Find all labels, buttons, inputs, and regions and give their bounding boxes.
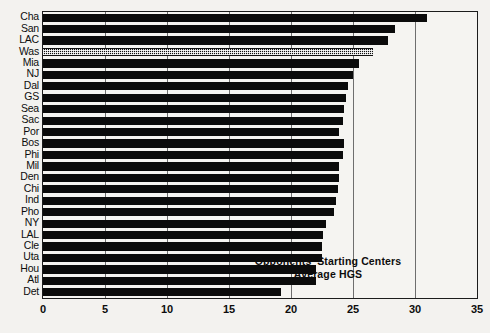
bar-row <box>43 104 477 115</box>
bar-sea <box>43 105 344 113</box>
x-tick-label-35: 35 <box>471 303 483 316</box>
bar-row <box>43 126 477 137</box>
y-tick-label-pho: Pho <box>0 206 39 217</box>
bar-gs <box>43 94 346 102</box>
y-tick-label-sea: Sea <box>0 103 39 114</box>
y-tick-label-chi: Chi <box>0 183 39 194</box>
x-tick-label-30: 30 <box>409 303 421 316</box>
y-tick-label-det: Det <box>0 286 39 297</box>
bar-row <box>43 206 477 217</box>
bar-row <box>43 35 477 46</box>
y-tick-label-lal: LAL <box>0 229 39 240</box>
bar-cha <box>43 14 427 22</box>
annotation-line-1: Opponents' Starting Centers <box>222 255 434 268</box>
bar-row <box>43 69 477 80</box>
bar-row <box>43 218 477 229</box>
y-tick-label-phi: Phi <box>0 149 39 160</box>
bar-lal <box>43 231 323 239</box>
y-tick-label-sac: Sac <box>0 114 39 125</box>
y-tick-label-san: San <box>0 23 39 34</box>
bar-row <box>43 229 477 240</box>
x-tick-label-0: 0 <box>40 303 46 316</box>
chart-container: ChaSanLACWasMiaNJDalGSSeaSacPorBosPhiMil… <box>0 0 490 333</box>
x-tick-label-20: 20 <box>285 303 297 316</box>
bar-san <box>43 25 395 33</box>
chart-annotation: Opponents' Starting Centers Average HGS <box>222 255 434 280</box>
bar-ind <box>43 197 336 205</box>
bar-row <box>43 195 477 206</box>
bar-row <box>43 184 477 195</box>
bar-chi <box>43 185 338 193</box>
bar-row <box>43 138 477 149</box>
bar-sac <box>43 117 343 125</box>
bar-dal <box>43 82 348 90</box>
bar-row <box>43 241 477 252</box>
y-tick-label-por: Por <box>0 126 39 137</box>
y-tick-label-dal: Dal <box>0 80 39 91</box>
bar-det <box>43 288 281 296</box>
y-tick-label-mia: Mia <box>0 57 39 68</box>
y-tick-label-nj: NJ <box>0 68 39 79</box>
bar-phi <box>43 151 343 159</box>
bar-cle <box>43 242 322 250</box>
x-tick-label-15: 15 <box>223 303 235 316</box>
y-tick-label-mil: Mil <box>0 160 39 171</box>
bar-row <box>43 58 477 69</box>
y-axis-tick-labels: ChaSanLACWasMiaNJDalGSSeaSacPorBosPhiMil… <box>0 11 39 299</box>
y-tick-label-gs: GS <box>0 91 39 102</box>
bar-bos <box>43 139 344 147</box>
bar-den <box>43 174 339 182</box>
bar-row <box>43 115 477 126</box>
bar-row <box>43 287 477 298</box>
x-tick-label-25: 25 <box>347 303 359 316</box>
bar-row <box>43 172 477 183</box>
y-tick-label-cha: Cha <box>0 11 39 22</box>
y-tick-label-cle: Cle <box>0 240 39 251</box>
bar-row <box>43 149 477 160</box>
x-tick-label-5: 5 <box>102 303 108 316</box>
bar-row <box>43 46 477 57</box>
bar-row <box>43 12 477 23</box>
y-tick-label-atl: Atl <box>0 274 39 285</box>
x-axis-tick-labels: 05101520253035 <box>0 303 490 323</box>
bar-nj <box>43 71 353 79</box>
y-tick-label-ny: NY <box>0 217 39 228</box>
y-tick-label-uta: Uta <box>0 251 39 262</box>
y-tick-label-den: Den <box>0 171 39 182</box>
x-tick-label-10: 10 <box>161 303 173 316</box>
bar-row <box>43 92 477 103</box>
bar-row <box>43 81 477 92</box>
bar-row <box>43 23 477 34</box>
bar-pho <box>43 208 334 216</box>
bar-mil <box>43 162 339 170</box>
y-tick-label-ind: Ind <box>0 194 39 205</box>
y-tick-label-was: Was <box>0 46 39 57</box>
bar-ny <box>43 220 326 228</box>
y-tick-label-hou: Hou <box>0 263 39 274</box>
bar-was <box>43 48 373 56</box>
bar-lac <box>43 36 388 44</box>
y-tick-label-lac: LAC <box>0 34 39 45</box>
y-tick-label-bos: Bos <box>0 137 39 148</box>
bar-mia <box>43 59 359 67</box>
annotation-line-2: Average HGS <box>222 268 434 281</box>
bar-row <box>43 161 477 172</box>
bar-por <box>43 128 339 136</box>
